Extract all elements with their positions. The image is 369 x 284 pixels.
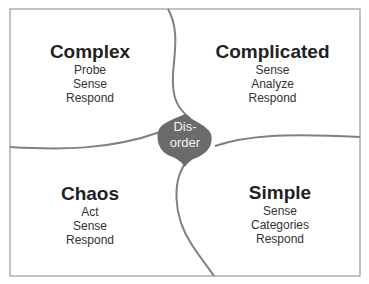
disorder-label: Dis- order — [160, 119, 210, 151]
domain-chaos: Chaos Act Sense Respond — [40, 183, 140, 247]
domain-step: Respond — [40, 233, 140, 247]
domain-step: Act — [40, 205, 140, 219]
domain-step: Sense — [40, 219, 140, 233]
domain-title: Chaos — [40, 183, 140, 205]
domain-complicated: Complicated Sense Analyze Respond — [200, 41, 345, 105]
domain-title: Simple — [225, 182, 335, 204]
disorder-line1: Dis- — [160, 119, 210, 135]
disorder-line2: order — [160, 135, 210, 151]
domain-step: Respond — [200, 91, 345, 105]
domain-step: Sense — [30, 77, 150, 91]
domain-step: Respond — [225, 232, 335, 246]
domain-step: Probe — [30, 63, 150, 77]
domain-simple: Simple Sense Categories Respond — [225, 182, 335, 246]
domain-step: Categories — [225, 218, 335, 232]
domain-title: Complicated — [200, 41, 345, 63]
domain-step: Respond — [30, 91, 150, 105]
domain-step: Analyze — [200, 77, 345, 91]
domain-step: Sense — [200, 63, 345, 77]
domain-title: Complex — [30, 41, 150, 63]
domain-step: Sense — [225, 204, 335, 218]
domain-complex: Complex Probe Sense Respond — [30, 41, 150, 105]
